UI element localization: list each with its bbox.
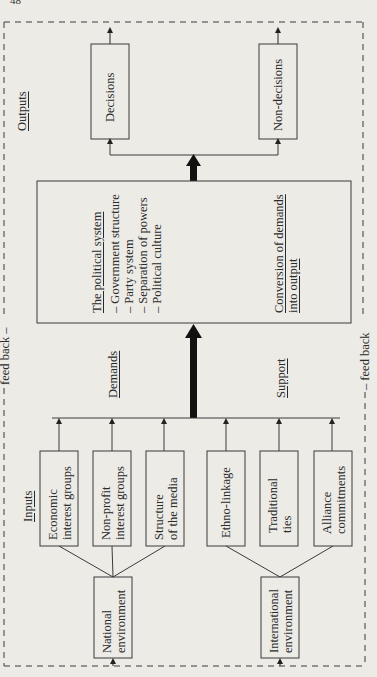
thick-arrow-input: [185, 324, 202, 418]
input-bus: [52, 418, 340, 451]
national-env-line1: National: [100, 610, 114, 653]
diagram-canvas: [0, 0, 377, 677]
non-profit-line2: interest groups: [113, 466, 127, 540]
feedback-label-left: feed back –: [0, 327, 12, 385]
input-boxes: [40, 451, 352, 546]
output-feedback-arrows: [110, 30, 278, 44]
traditional-line2: ties: [280, 516, 294, 533]
traditional-line1: Traditional: [266, 478, 280, 533]
feedback-loop: [4, 22, 365, 666]
national-env-line2: environment: [114, 590, 128, 653]
inputs-heading: Inputs: [21, 491, 35, 522]
political-system-item-party: Party system: [122, 239, 136, 313]
decisions-label: Decisions: [103, 73, 117, 122]
outputs-heading: Outputs: [15, 91, 29, 131]
demands-heading: Demands: [106, 351, 120, 398]
political-system-title: The political system: [90, 212, 104, 313]
non-profit-line1: Non-profit: [99, 487, 113, 540]
international-env-line2: environment: [281, 590, 295, 653]
political-system-box: [37, 181, 351, 323]
political-system-item-government: Government structure: [108, 194, 122, 313]
output-bracket: [110, 141, 278, 155]
international-env-line1: International: [267, 589, 281, 653]
feedback-into-environments: [113, 661, 280, 666]
structure-line1: Structure: [152, 494, 166, 540]
political-system-item-separation: Separation of powers: [136, 197, 150, 313]
support-heading: Support: [274, 358, 288, 398]
economic-line1: Economic: [46, 489, 60, 540]
non-decisions-label: Non-decisions: [271, 59, 285, 131]
environment-fan-lines: [59, 546, 333, 577]
alliance-line2: commitments: [334, 466, 348, 534]
ethno-linkage-line1: Ethno-linkage: [219, 467, 233, 538]
thick-arrow-output: [186, 154, 201, 181]
political-system-item-culture: Political culture: [150, 224, 164, 313]
conversion-line1: Conversion of demands: [272, 194, 286, 313]
feedback-label-right: – feed back: [358, 332, 372, 390]
economic-line2: interest groups: [60, 466, 74, 540]
conversion-line2: into output: [286, 258, 300, 313]
structure-line2: of the media: [166, 478, 180, 540]
alliance-line1: Alliance: [320, 492, 334, 534]
